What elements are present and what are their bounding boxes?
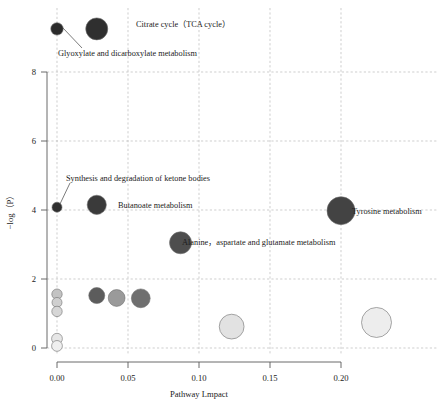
y-axis-title: −log（P） [5,191,15,230]
y-tick-6: 6 [32,136,37,146]
y-axis: 8 6 4 2 0 [32,67,47,353]
x-tick-020: 0.20 [333,373,348,383]
label-ketone-bodies: Synthesis and degradation of ketone bodi… [66,174,210,183]
x-tick-010: 0.10 [191,373,206,383]
label-alanine: Alanine，aspartate and glutamate metaboli… [182,238,336,247]
x-tick-005: 0.05 [120,373,135,383]
bubble-point[interactable] [86,18,108,40]
bubble-point[interactable] [52,202,62,212]
bubble-point[interactable] [52,341,63,352]
label-tyrosine: Tyrosine metabolism [352,207,422,216]
bubble-point[interactable] [108,290,125,307]
bubble-point[interactable] [51,23,63,35]
x-axis-title: Pathway Lmpact [170,389,229,399]
y-tick-0: 0 [32,343,36,353]
bubble-point[interactable] [219,314,244,339]
label-butanoate: Butanoate metabolism [118,201,193,210]
bubble-point[interactable] [327,197,355,225]
bubble-point[interactable] [52,306,62,316]
chart-canvas: 8 6 4 2 0 0.00 0.05 0.10 0.15 0.20 Pathw… [0,0,445,407]
pathway-impact-bubble-chart: 8 6 4 2 0 0.00 0.05 0.10 0.15 0.20 Pathw… [0,0,445,407]
bubble-series [51,18,392,351]
y-tick-4: 4 [32,205,37,215]
y-tick-2: 2 [32,274,36,284]
x-tick-015: 0.15 [262,373,277,383]
label-citrate-cycle: Citrate cycle（TCA cycle） [136,20,230,29]
bubble-point[interactable] [362,307,392,337]
bubble-point[interactable] [131,289,150,308]
bubble-point[interactable] [87,195,106,214]
bubble-point[interactable] [89,288,105,304]
y-tick-8: 8 [32,67,36,77]
label-glyoxylate: Glyoxylate and dicarboxylate metabolism [58,49,197,58]
x-tick-000: 0.00 [49,373,64,383]
x-axis: 0.00 0.05 0.10 0.15 0.20 [49,362,348,383]
